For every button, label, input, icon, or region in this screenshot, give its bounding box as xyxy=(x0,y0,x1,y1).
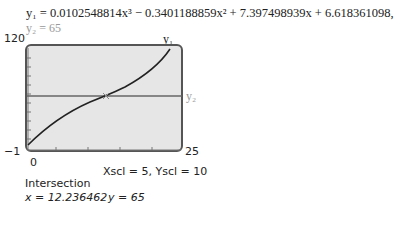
scale-label: Xscl = 5, Yscl = 10 xyxy=(103,165,207,178)
intersection-y: y = 65 xyxy=(108,191,145,204)
intersection-x: x = 12.236462 xyxy=(25,191,107,204)
xmax-label: 25 xyxy=(185,145,199,158)
xzero-label: 0 xyxy=(30,156,37,169)
intersection-title: Intersection xyxy=(25,177,90,190)
y1-curve xyxy=(28,49,170,145)
xmin-label: −1 xyxy=(4,145,20,158)
